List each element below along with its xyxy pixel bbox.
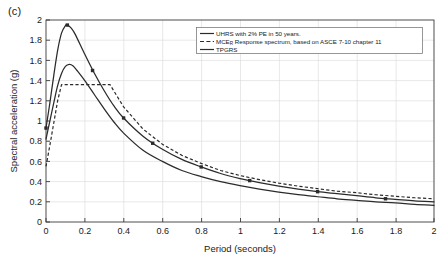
x-tick-labels: 0 0.2 0.4 0.6 0.8 1 1.2 1.4 1.6 1.8 2 <box>43 226 436 236</box>
legend-label-uhrs: UHRS with 2% PE in 50 years. <box>216 30 301 37</box>
series-data-marker <box>44 126 47 129</box>
x-tick-label: 2 <box>431 226 436 236</box>
series-data-marker <box>316 190 319 193</box>
y-tick-label: 1.2 <box>29 96 42 106</box>
y-tick-labels: 0 0.2 0.4 0.6 0.8 1 1.2 1.4 1.6 1.8 2 <box>29 15 42 227</box>
y-tick-label: 0.6 <box>29 157 42 167</box>
series-data-marker <box>91 69 94 72</box>
y-axis-title: Spectral acceleration (g) <box>8 70 19 173</box>
y-tick-label: 0 <box>37 217 42 227</box>
series-data-marker <box>151 142 154 145</box>
series-data-marker <box>200 165 203 168</box>
y-tick-label: 2 <box>37 15 42 25</box>
x-tick-label: 1 <box>238 226 243 236</box>
x-tick-label: 0 <box>43 226 48 236</box>
series-tpgrs-line <box>46 64 434 205</box>
y-tick-label: 0.8 <box>29 136 42 146</box>
series-data-marker <box>248 179 251 182</box>
x-tick-label: 0.2 <box>79 226 92 236</box>
spectral-acceleration-chart: 0 0.2 0.4 0.6 0.8 1 1.2 1.4 1.6 1.8 2 0 … <box>0 0 448 266</box>
y-tick-label: 1 <box>37 116 42 126</box>
x-tick-label: 0.4 <box>118 226 131 236</box>
x-axis-title: Period (seconds) <box>204 243 276 254</box>
y-tick-label: 0.4 <box>29 177 42 187</box>
series-data-marker <box>122 116 125 119</box>
x-tick-label: 1.4 <box>312 226 325 236</box>
legend-label-tpgrs: TPGRS <box>216 46 237 53</box>
x-tick-label: 1.6 <box>351 226 364 236</box>
series-data-marker <box>384 197 387 200</box>
panel-label: (c) <box>8 5 21 17</box>
y-tick-label: 1.4 <box>29 76 42 86</box>
y-tick-label: 1.6 <box>29 56 42 66</box>
y-tick-label: 0.2 <box>29 197 42 207</box>
chart-legend: UHRS with 2% PE in 50 years. MCER Respon… <box>197 28 423 54</box>
x-tick-label: 1.2 <box>273 226 286 236</box>
series-data-marker <box>66 23 69 26</box>
x-tick-label: 0.6 <box>156 226 169 236</box>
x-tick-label: 0.8 <box>195 226 208 236</box>
y-tick-label: 1.8 <box>29 35 42 45</box>
x-tick-label: 1.8 <box>390 226 403 236</box>
x-axis-ticks <box>46 218 434 222</box>
figure-panel-c: (c) <box>0 0 448 266</box>
